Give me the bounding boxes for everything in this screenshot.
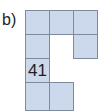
figure-b: b) 41 — [0, 0, 104, 111]
cell-r2c3[interactable] — [73, 34, 98, 59]
cell-grid: 41 — [25, 10, 98, 111]
cell-r1c2[interactable] — [49, 10, 74, 35]
cell-r1c3[interactable] — [73, 10, 98, 35]
cell-r1c1[interactable] — [25, 10, 50, 35]
cell-r4c2[interactable] — [49, 82, 74, 111]
cell-r4c1[interactable] — [25, 82, 50, 111]
part-label: b) — [2, 12, 16, 28]
cell-r3c1[interactable]: 41 — [25, 58, 50, 83]
cell-r3c1-label: 41 — [26, 62, 47, 79]
cell-r2c1[interactable] — [25, 34, 50, 59]
